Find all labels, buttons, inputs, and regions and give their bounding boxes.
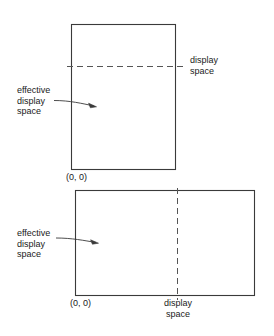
landscape-effective-arrowhead-icon bbox=[91, 240, 99, 244]
landscape-display-diagram bbox=[56, 188, 255, 300]
display-space-figure: display space effective display space (0… bbox=[0, 0, 274, 336]
landscape-effective-display-space-label: effective display space bbox=[17, 228, 50, 260]
portrait-origin-label: (0, 0) bbox=[66, 172, 87, 183]
figure-vector-layer bbox=[0, 0, 274, 336]
portrait-display-rect bbox=[72, 25, 176, 170]
portrait-effective-leader-arrow bbox=[54, 101, 94, 107]
portrait-display-space-label: display space bbox=[190, 55, 218, 76]
landscape-display-space-label: display space bbox=[152, 298, 204, 319]
portrait-effective-display-space-label: effective display space bbox=[17, 85, 50, 117]
landscape-origin-label: (0, 0) bbox=[70, 298, 91, 309]
portrait-display-diagram bbox=[54, 25, 186, 170]
portrait-effective-arrowhead-icon bbox=[89, 103, 97, 108]
landscape-display-rect bbox=[76, 191, 255, 296]
